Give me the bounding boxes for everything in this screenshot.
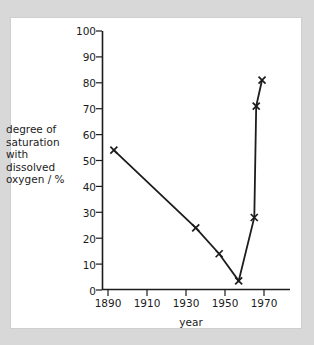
chart-figure: degree of saturation with dissolved oxyg… xyxy=(0,0,314,345)
data-marker xyxy=(216,250,223,257)
x-axis-ticks xyxy=(108,290,264,296)
data-marker xyxy=(192,224,199,231)
axes xyxy=(102,31,290,290)
plot-area xyxy=(0,0,314,345)
data-markers xyxy=(110,77,265,285)
data-line xyxy=(114,80,262,281)
y-axis-ticks xyxy=(96,31,102,290)
data-marker xyxy=(110,147,117,154)
